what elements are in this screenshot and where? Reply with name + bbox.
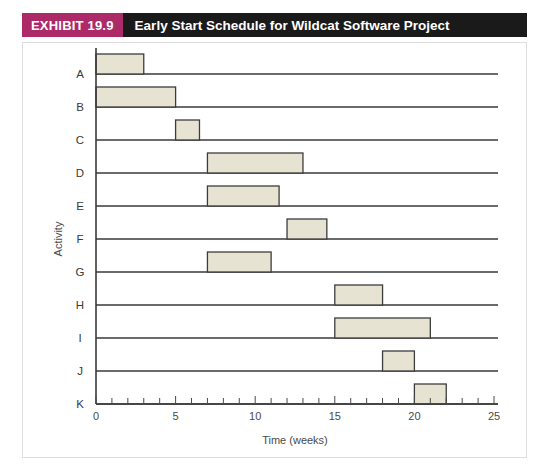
exhibit-number-badge: EXHIBIT 19.9 xyxy=(22,13,123,37)
figure-frame xyxy=(22,42,527,458)
exhibit-header: EXHIBIT 19.9 Early Start Schedule for Wi… xyxy=(22,13,527,37)
exhibit-title: Early Start Schedule for Wildcat Softwar… xyxy=(123,13,527,37)
